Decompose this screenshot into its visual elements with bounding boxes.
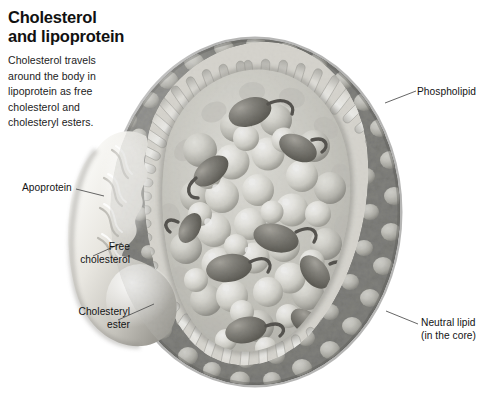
callout-neutral-lipid-line-2: (in the core) xyxy=(421,329,476,342)
figure-caption: Cholesterol travels around the body in l… xyxy=(8,53,140,131)
callout-phospholipid: Phospholipid xyxy=(417,85,476,98)
callout-cholesteryl-ester-line-1: Cholesteryl xyxy=(45,305,130,318)
caption-line-3: lipoprotein as free xyxy=(8,84,140,100)
callout-cholesteryl-ester-line-2: ester xyxy=(45,318,130,331)
callout-free-cholesterol-line-2: cholesterol xyxy=(33,253,130,266)
callout-phospholipid-line-1: Phospholipid xyxy=(417,85,476,98)
callout-free-cholesterol-line-1: Free xyxy=(33,240,130,253)
caption-line-2: around the body in xyxy=(8,69,140,85)
title-line-2: and lipoprotein xyxy=(8,27,140,46)
callout-free-cholesterol: Free cholesterol xyxy=(33,240,130,266)
title-line-1: Cholesterol xyxy=(8,8,97,26)
callout-cholesteryl-ester: Cholesteryl ester xyxy=(45,305,130,331)
caption-line-1: Cholesterol travels xyxy=(8,53,140,69)
caption-line-5: cholesteryl esters. xyxy=(8,115,140,131)
callout-apoprotein: Apoprotein xyxy=(22,181,72,194)
figure-canvas: Cholesterol and lipoprotein Cholesterol … xyxy=(0,0,486,402)
leader-neutral-lipid xyxy=(386,311,418,324)
callout-neutral-lipid: Neutral lipid (in the core) xyxy=(421,316,476,342)
figure-text-block: Cholesterol and lipoprotein Cholesterol … xyxy=(8,8,140,131)
callout-neutral-lipid-line-1: Neutral lipid xyxy=(421,316,476,329)
page-title: Cholesterol and lipoprotein xyxy=(8,8,140,46)
leader-phospholipid xyxy=(385,91,416,103)
callout-apoprotein-line-1: Apoprotein xyxy=(22,181,72,194)
caption-line-4: cholesterol and xyxy=(8,100,140,116)
